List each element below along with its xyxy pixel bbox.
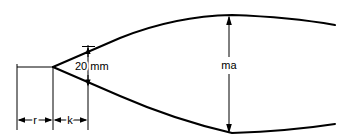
height-dimension-group: ma — [221, 16, 237, 134]
bottom-profile-curve — [53, 67, 335, 133]
ma-dimension-label: ma — [221, 59, 237, 71]
gap-dimension-label: 20 mm — [75, 60, 109, 72]
k-left-arrowhead — [54, 117, 62, 122]
r-left-arrowhead — [18, 117, 26, 122]
diagram-canvas: r k 20 mm ma — [0, 0, 342, 140]
k-right-arrowhead — [80, 117, 88, 122]
dimension-diagram-figure: r k 20 mm ma — [0, 0, 342, 140]
k-dimension-label: k — [67, 114, 73, 126]
gap-dimension-group: 20 mm — [75, 47, 109, 87]
r-right-arrowhead — [45, 117, 53, 122]
ma-upper-arrowhead — [226, 16, 232, 26]
profile-outline — [53, 15, 335, 133]
extension-lines-group — [17, 45, 88, 130]
r-dimension-label: r — [33, 114, 37, 126]
